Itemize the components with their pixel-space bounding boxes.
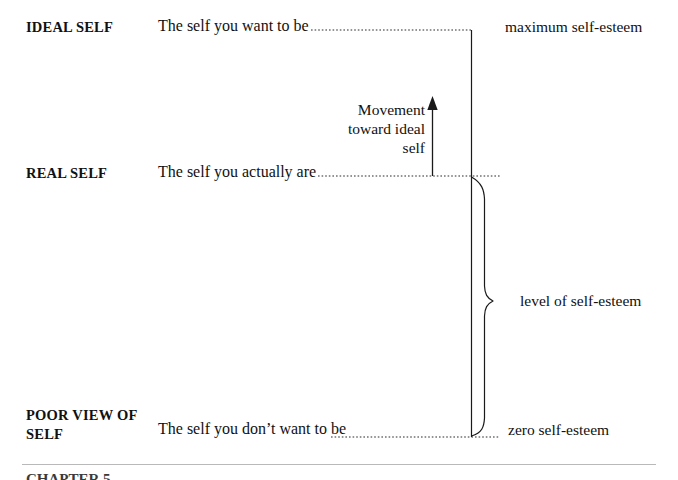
level-brace: [472, 177, 494, 436]
right-label-zero-self-esteem: zero self-esteem: [508, 422, 609, 438]
footer-divider: [22, 464, 656, 465]
stage-label-ideal-self: IDEAL SELF: [26, 20, 113, 35]
movement-arrow-head: [427, 96, 437, 110]
stage-description-ideal-self: The self you want to be: [158, 18, 309, 34]
stage-description-poor-view-of-self: The self you don’t want to be: [158, 421, 346, 437]
diagram-canvas: IDEAL SELF REAL SELF POOR VIEW OF SELF T…: [0, 0, 678, 480]
movement-toward-ideal-self-label: Movement toward ideal self: [325, 101, 425, 158]
footer-running-head: CHAPTER 5: [26, 471, 326, 480]
right-label-maximum-self-esteem: maximum self-esteem: [505, 19, 642, 35]
stage-label-poor-view-of-self: POOR VIEW OF SELF: [26, 406, 166, 444]
brace-label-level-of-self-esteem: level of self-esteem: [520, 293, 641, 309]
stage-description-real-self: The self you actually are: [158, 164, 316, 180]
stage-label-real-self: REAL SELF: [26, 166, 107, 181]
